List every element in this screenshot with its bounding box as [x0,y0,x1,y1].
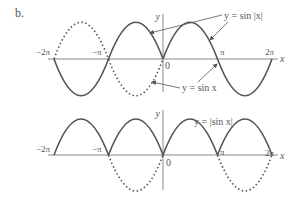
bottom-graph: y x 0 −2π −π π 2π y = |sin x| [36,108,285,191]
top-annotation-sin-abs-x: y = sin |x| [224,10,263,21]
top-origin-label: 0 [165,60,170,71]
bottom-sin-x-dotted-lobe-right [218,155,273,191]
top-annotation-sin-x: y = sin x [182,82,217,93]
top-tick-neg-pi: −π [92,47,102,57]
bottom-y-axis-label: y [155,108,161,119]
top-tick-2pi: 2π [265,47,275,57]
bottom-annotation-abs-sin-x: y = |sin x| [194,116,233,127]
bottom-x-axis-label: x [279,150,285,161]
bottom-sin-x-dotted-lobe-left [109,155,164,191]
top-annotation-arrow-right [210,22,228,40]
bottom-tick-neg-2pi: −2π [36,144,51,154]
top-y-axis-label: y [155,11,161,22]
top-graph: y x 0 −2π −π π 2π y = sin |x| y = sin x [36,10,285,96]
top-tick-neg-2pi: −2π [36,47,51,57]
top-annotation-arrow-solid [198,64,217,82]
top-annotation-arrow-left [150,15,222,33]
part-label: b. [15,6,24,20]
bottom-tick-pi: π [220,147,225,157]
bottom-origin-label: 0 [166,157,171,168]
bottom-tick-2pi: 2π [265,148,275,158]
top-annotation-arrow-dotted [152,82,180,88]
bottom-tick-neg-pi: −π [92,144,102,154]
top-tick-pi: π [220,47,225,57]
top-x-axis-label: x [279,53,285,64]
figure-canvas: b. y x 0 −2π −π π 2π y = sin |x| y = sin… [0,0,298,197]
